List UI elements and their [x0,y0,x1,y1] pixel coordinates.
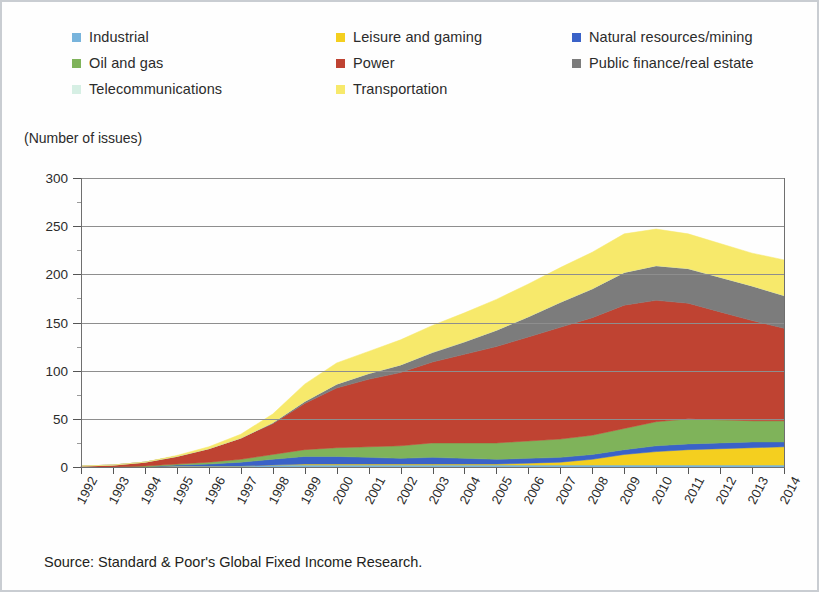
y-tick-mark [73,371,81,372]
y-axis-line [81,178,82,468]
y-tick-mark [73,419,81,420]
x-tick-mark [337,468,338,474]
x-tick-mark [592,468,593,474]
x-tick-mark [369,468,370,474]
y-tick-label: 100 [26,363,68,378]
x-tick-mark [496,468,497,474]
source-note: Source: Standard & Poor's Global Fixed I… [44,554,422,570]
x-tick-mark [752,468,753,474]
y-tick-label: 50 [26,411,68,426]
y-tick-mark [73,178,81,179]
x-tick-mark [560,468,561,474]
x-tick-mark [464,468,465,474]
y-tick-label: 200 [26,267,68,282]
gridline [81,274,784,275]
figure-frame: IndustrialOil and gasTelecommunicationsL… [0,0,819,592]
gridline [81,419,784,420]
y-tick-mark [73,467,81,468]
x-tick-mark [305,468,306,474]
y-tick-mark [73,323,81,324]
gridline [81,226,784,227]
plot-area [2,162,819,492]
y-axis-line [784,178,785,468]
x-tick-mark [145,468,146,474]
y-tick-mark [73,226,81,227]
x-tick-mark [720,468,721,474]
gridline [81,178,784,179]
x-tick-mark [656,468,657,474]
gridline [81,323,784,324]
x-tick-mark [433,468,434,474]
y-tick-label: 150 [26,315,68,330]
x-tick-mark [624,468,625,474]
x-tick-mark [177,468,178,474]
x-tick-mark [784,468,785,474]
x-tick-mark [113,468,114,474]
y-tick-mark [73,274,81,275]
y-tick-label: 0 [26,460,68,475]
x-tick-mark [401,468,402,474]
y-tick-label: 300 [26,171,68,186]
x-tick-mark [688,468,689,474]
y-tick-label: 250 [26,219,68,234]
x-tick-mark [273,468,274,474]
gridline [81,371,784,372]
x-tick-mark [81,468,82,474]
stacked-area-series [2,2,819,592]
x-tick-mark [209,468,210,474]
x-tick-mark [528,468,529,474]
x-tick-mark [241,468,242,474]
